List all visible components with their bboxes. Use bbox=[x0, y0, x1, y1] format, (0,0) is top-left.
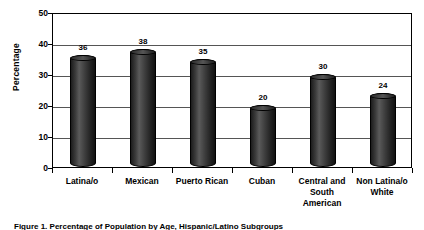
bar-slot: 35 bbox=[173, 14, 233, 167]
bar bbox=[310, 74, 336, 167]
bar bbox=[70, 55, 96, 167]
x-axis-tick-mark bbox=[292, 168, 293, 173]
bar bbox=[130, 49, 156, 167]
bar-value-label: 36 bbox=[79, 43, 88, 52]
x-axis-category-line: Non Latina/o bbox=[346, 176, 418, 187]
y-axis-tick-label: 40 bbox=[0, 39, 48, 49]
bar-value-label: 24 bbox=[379, 81, 388, 90]
bar-slot: 20 bbox=[233, 14, 293, 167]
x-axis-tick-mark bbox=[412, 168, 413, 173]
y-axis-tick-label: 0 bbox=[0, 163, 48, 173]
bar bbox=[190, 59, 216, 168]
x-axis-tick-mark bbox=[52, 168, 53, 173]
x-axis-tick-mark bbox=[352, 168, 353, 173]
y-axis-tick-label: 10 bbox=[0, 132, 48, 142]
x-axis-category-label: Non Latina/oWhite bbox=[346, 176, 418, 198]
x-axis-tick-mark bbox=[232, 168, 233, 173]
y-axis-tick-label: 20 bbox=[0, 101, 48, 111]
x-axis-category-line: American bbox=[286, 198, 358, 209]
bar-value-label: 38 bbox=[139, 37, 148, 46]
x-axis: Latina/oMexicanPuerto RicanCubanCentral … bbox=[52, 168, 412, 174]
bar-value-label: 35 bbox=[199, 47, 208, 56]
x-axis-category-line: White bbox=[346, 187, 418, 198]
bar bbox=[370, 93, 396, 167]
figure-container: Percentage 01020304050 363835203024 Lati… bbox=[0, 0, 424, 230]
bar bbox=[250, 105, 276, 167]
bar-slot: 38 bbox=[113, 14, 173, 167]
y-axis-tick-label: 30 bbox=[0, 70, 48, 80]
figure-caption: Figure 1. Percentage of Population by Ag… bbox=[14, 222, 414, 230]
bar-value-label: 30 bbox=[319, 62, 328, 71]
x-axis-tick-mark bbox=[172, 168, 173, 173]
x-axis-tick-mark bbox=[112, 168, 113, 173]
plot-area: 363835203024 bbox=[52, 13, 412, 168]
bar-slot: 24 bbox=[353, 14, 413, 167]
y-axis-tick-label: 50 bbox=[0, 8, 48, 18]
bar-slot: 30 bbox=[293, 14, 353, 167]
bar-slot: 36 bbox=[53, 14, 113, 167]
bar-value-label: 20 bbox=[259, 93, 268, 102]
